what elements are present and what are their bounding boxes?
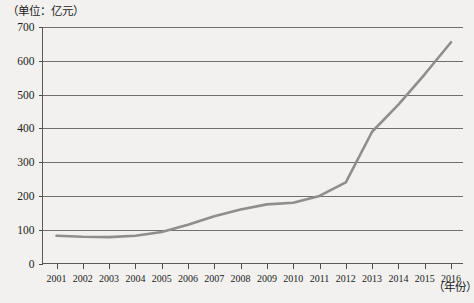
x-axis-tick-label: 2002 — [73, 273, 93, 284]
y-axis-tick-label: 400 — [17, 122, 35, 134]
data-series-group — [57, 42, 452, 237]
series-line-path — [57, 42, 452, 237]
x-axis-tick-label: 2006 — [178, 273, 198, 284]
chart-canvas: 0100200300400500600700 20012002200320042… — [0, 0, 474, 303]
y-axis-tick-label: 200 — [17, 190, 35, 202]
x-axis-tick-label: 2015 — [415, 273, 435, 284]
line-chart: （单位：亿元） （年份） 0100200300400500600700 2001… — [0, 0, 474, 303]
y-axis-tick-label: 300 — [17, 156, 35, 168]
x-axis-tick-label: 2014 — [388, 273, 408, 284]
y-axis-tick-label: 700 — [17, 21, 35, 33]
x-axis-tick-label: 2013 — [362, 273, 382, 284]
x-axis-tick-label: 2007 — [204, 273, 224, 284]
x-axis-tick-label: 2009 — [257, 273, 277, 284]
y-axis-tick-label: 500 — [17, 89, 35, 101]
gridlines-group — [39, 28, 464, 265]
y-axis-tick-label: 100 — [17, 224, 35, 236]
y-axis-tick-label: 0 — [29, 258, 35, 270]
x-axis-tick-label: 2004 — [125, 273, 145, 284]
x-axis-tick-labels-group: 2001200220032004200520062007200820092010… — [47, 264, 462, 284]
x-axis-tick-label: 2016 — [441, 273, 461, 284]
y-axis-tick-label: 600 — [17, 55, 35, 67]
x-axis-tick-label: 2011 — [310, 273, 330, 284]
x-axis-tick-label: 2008 — [231, 273, 251, 284]
x-axis-tick-label: 2001 — [47, 273, 67, 284]
y-axis-tick-labels-group: 0100200300400500600700 — [17, 21, 35, 270]
x-axis-tick-label: 2010 — [283, 273, 303, 284]
x-axis-tick-label: 2003 — [99, 273, 119, 284]
x-axis-tick-label: 2005 — [152, 273, 172, 284]
x-axis-tick-label: 2012 — [336, 273, 356, 284]
axis-lines-group — [42, 27, 463, 264]
